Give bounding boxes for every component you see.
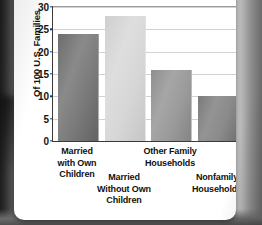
bar-2	[151, 70, 192, 141]
y-axis-tick-mark	[50, 118, 53, 119]
x-axis-label-3: NonfamilyHouseholds	[178, 172, 236, 195]
plot-area: 051015202530	[52, 6, 236, 142]
x-axis-label-line: with Own	[38, 158, 116, 170]
y-axis-tick-label: 20	[38, 46, 49, 57]
y-axis-tick-label: 15	[38, 69, 49, 80]
x-axis-label-line: Married	[38, 146, 116, 158]
y-axis-tick-mark	[50, 96, 53, 97]
x-axis-label-1: MarriedWithout OwnChildren	[85, 172, 163, 207]
x-axis-label-line: Households	[178, 184, 236, 196]
y-axis-tick-label: 30	[38, 2, 49, 13]
x-axis-label-line: Other Family	[131, 146, 209, 158]
x-axis-label-line: Nonfamily	[178, 172, 236, 184]
y-axis-tick-mark	[50, 140, 53, 141]
plot-area-wrapper: Of 100 U.S. Families 051015202530 Marrie…	[14, 0, 236, 220]
y-axis-tick-mark	[50, 73, 53, 74]
y-axis-tick-label: 5	[43, 113, 49, 124]
gridline	[53, 7, 236, 8]
page-right-shadow	[232, 0, 262, 225]
chart-card: U.S. Families and Households Of 100 U.S.…	[14, 0, 236, 220]
y-axis-tick-label: 25	[38, 24, 49, 35]
x-axis-label-line: Without Own	[85, 184, 163, 196]
bar-3	[198, 96, 236, 141]
y-axis-tick-mark	[50, 51, 53, 52]
y-axis-tick-label: 0	[43, 136, 49, 147]
x-axis-label-line: Married	[85, 172, 163, 184]
x-axis-label-line: Households	[131, 158, 209, 170]
x-axis-label-2: Other FamilyHouseholds	[131, 146, 209, 169]
chart-screenshot: U.S. Families and Households Of 100 U.S.…	[0, 0, 262, 225]
bar-1	[105, 16, 146, 141]
bar-0	[58, 34, 99, 141]
y-axis-tick-label: 10	[38, 91, 49, 102]
x-axis-label-line: Children	[85, 195, 163, 207]
y-axis-tick-mark	[50, 29, 53, 30]
y-axis-tick-mark	[50, 6, 53, 7]
y-axis-label: Of 100 U.S. Families	[31, 0, 42, 121]
